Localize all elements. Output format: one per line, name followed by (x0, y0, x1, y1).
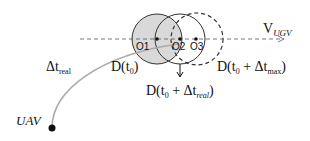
d-t0-post: ) (134, 59, 139, 74)
velocity-sub: UGV (273, 28, 292, 38)
center-o1 (155, 37, 159, 41)
label-o2: O2 (172, 42, 185, 52)
d-real-post: ) (209, 83, 214, 98)
label-o1: O1 (136, 42, 149, 52)
d-max-pre: D(t (217, 59, 236, 74)
delta-t-main: Δt (46, 59, 59, 74)
label-o3: O3 (190, 42, 203, 52)
d-max-sub1: max (267, 67, 281, 76)
velocity-label: VUGV (263, 22, 292, 38)
d-real-pre: D(t (146, 83, 165, 98)
d-real-mid: + Δt (169, 83, 197, 98)
delta-t-real-label: Δtreal (46, 60, 71, 76)
d-max-mid: + Δt (240, 59, 268, 74)
d-t0-real-label: D(t0 + Δtreal) (146, 84, 214, 100)
d-max-post: ) (281, 59, 286, 74)
d-t0-max-label: D(t0 + Δtmax) (217, 60, 286, 76)
uav-point (49, 125, 56, 132)
delta-t-sub: real (59, 67, 71, 76)
velocity-main: V (263, 21, 273, 36)
uav-label: UAV (16, 114, 41, 127)
d-real-sub1: real (196, 91, 209, 100)
d-t0-label: D(t0) (111, 60, 138, 76)
d-t0-pre: D(t (111, 59, 130, 74)
